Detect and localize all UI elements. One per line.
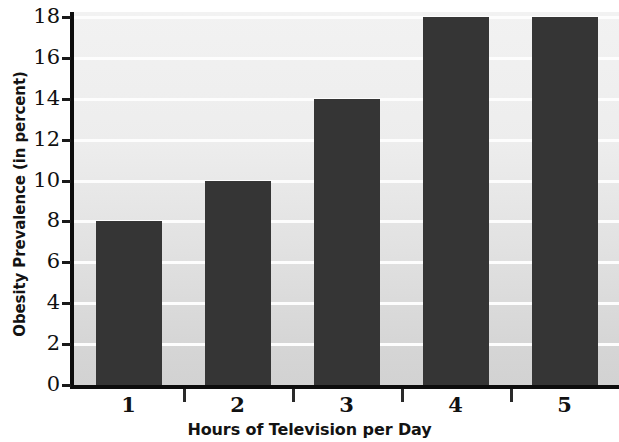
y-axis-tick-label: 12 <box>14 129 60 150</box>
y-axis-tick-label: 14 <box>14 88 60 109</box>
bar <box>532 17 598 385</box>
y-axis-tick-label: 10 <box>14 170 60 191</box>
y-axis-tick-mark <box>62 57 71 60</box>
bar <box>423 17 489 385</box>
x-axis-tick-mark <box>292 389 295 402</box>
y-axis-tick-label: 0 <box>14 374 60 395</box>
y-axis-tick-label: 6 <box>14 251 60 272</box>
y-axis-tick-label: 16 <box>14 47 60 68</box>
x-axis-tick-mark <box>401 389 404 402</box>
y-axis-tick-mark <box>62 220 71 223</box>
y-axis-tick-label: 18 <box>14 6 60 27</box>
x-axis-tick-label: 1 <box>99 392 159 417</box>
x-axis-tick-label: 4 <box>426 392 486 417</box>
y-axis-tick-label-group: 024681012141618 <box>0 0 60 442</box>
bar <box>314 99 380 385</box>
plot-area <box>74 12 619 385</box>
y-axis-tick-label: 2 <box>14 333 60 354</box>
x-axis-tick-label: 5 <box>535 392 595 417</box>
x-axis-tick-mark <box>510 389 513 402</box>
y-axis-line <box>70 12 74 389</box>
y-axis-tick-label: 8 <box>14 210 60 231</box>
x-axis-tick-label: 2 <box>208 392 268 417</box>
y-axis-tick-mark <box>62 139 71 142</box>
y-axis-tick-mark <box>62 180 71 183</box>
y-axis-tick-label: 4 <box>14 292 60 313</box>
x-axis-line <box>70 385 619 389</box>
bar <box>96 221 162 385</box>
y-axis-tick-mark <box>62 16 71 19</box>
x-axis-tick-mark <box>183 389 186 402</box>
y-axis-tick-mark <box>62 302 71 305</box>
x-axis-title: Hours of Television per Day <box>0 420 619 439</box>
y-axis-tick-mark <box>62 261 71 264</box>
x-axis-tick-label: 3 <box>317 392 377 417</box>
y-axis-tick-mark <box>62 98 71 101</box>
y-axis-tick-mark <box>62 343 71 346</box>
y-axis-tick-mark <box>62 384 71 387</box>
bar-chart-figure: Obesity Prevalence (in percent) 02468101… <box>0 0 619 442</box>
bar <box>205 181 271 385</box>
